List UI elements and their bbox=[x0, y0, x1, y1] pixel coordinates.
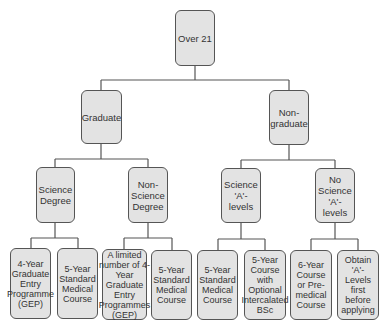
node-label: Non-Science Degree bbox=[130, 179, 166, 212]
node-label: Science Degree bbox=[38, 184, 73, 206]
node-over-21: Over 21 bbox=[175, 10, 215, 66]
node-label: A limited number of 4-Year Graduate Entr… bbox=[99, 250, 151, 320]
leaf-obtain-a-levels: Obtain 'A'-Levels first before applying bbox=[337, 250, 379, 320]
node-label: 6-Year Course or Pre-medical Course bbox=[292, 260, 330, 310]
leaf-5-year-standard-3: 5-Year Standard Medical Course bbox=[197, 250, 238, 320]
node-science-degree: Science Degree bbox=[36, 167, 75, 223]
node-label: Science 'A'-levels bbox=[223, 179, 259, 212]
node-no-science-a-levels: No Science 'A'-levels bbox=[315, 168, 355, 223]
node-non-science-degree: Non-Science Degree bbox=[128, 167, 168, 223]
leaf-4-year-gep: 4-Year Graduate Entry Programme (GEP) bbox=[10, 248, 51, 319]
leaf-5-year-standard-2: 5-Year Standard Medical Course bbox=[151, 250, 192, 320]
node-label: 4-Year Graduate Entry Programme (GEP) bbox=[7, 259, 54, 309]
node-label: 5-Year Standard Medical Course bbox=[199, 265, 236, 305]
node-label: Obtain 'A'-Levels first before applying bbox=[339, 255, 377, 315]
node-science-a-levels: Science 'A'-levels bbox=[221, 168, 261, 223]
node-graduate: Graduate bbox=[81, 90, 122, 144]
node-non-graduate: Non-graduate bbox=[269, 90, 309, 145]
node-label: 5-Year Course with Optional Intercalated… bbox=[241, 255, 288, 315]
node-label: No Science 'A'-levels bbox=[317, 174, 353, 218]
node-label: Non-graduate bbox=[270, 107, 308, 129]
leaf-5-year-standard-1: 5-Year Standard Medical Course bbox=[57, 248, 98, 319]
node-label: Over 21 bbox=[178, 33, 212, 44]
node-label: 5-Year Standard Medical Course bbox=[59, 264, 96, 304]
leaf-6-year-pre-medical: 6-Year Course or Pre-medical Course bbox=[290, 250, 332, 320]
leaf-5-year-intercalated-bsc: 5-Year Course with Optional Intercalated… bbox=[244, 250, 286, 320]
node-label: 5-Year Standard Medical Course bbox=[153, 265, 190, 305]
leaf-limited-gep: A limited number of 4-Year Graduate Entr… bbox=[102, 249, 147, 320]
node-label: Graduate bbox=[82, 112, 122, 123]
